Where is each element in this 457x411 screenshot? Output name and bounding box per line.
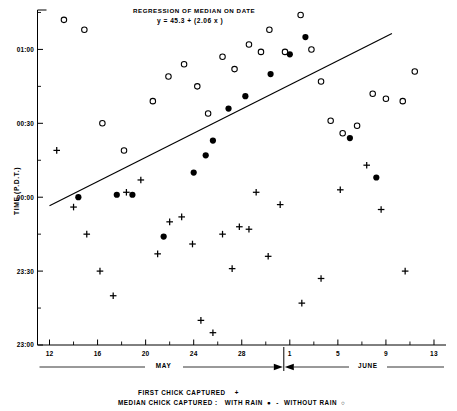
legend-label-first-chick: FIRST CHICK CAPTURED: [138, 389, 226, 396]
data-point-first-chick: [97, 268, 104, 275]
data-point-median-without-rain: [100, 121, 106, 127]
x-tick-label: 9: [375, 350, 397, 357]
data-point-median-without-rain: [205, 111, 211, 117]
data-point-median-with-rain: [225, 105, 231, 111]
legend-median-chick: MEDIAN CHICK CAPTURED :WITH RAIN●-WITHOU…: [118, 399, 345, 406]
data-point-median-without-rain: [412, 69, 418, 75]
data-point-first-chick: [318, 275, 325, 282]
data-point-median-without-rain: [328, 118, 334, 124]
data-point-first-chick: [166, 219, 173, 226]
data-point-first-chick: [299, 300, 306, 307]
x-tick-label: 16: [87, 350, 109, 357]
data-point-first-chick: [70, 204, 77, 211]
month-label: JUNE: [349, 362, 387, 369]
data-point-median-without-rain: [282, 49, 288, 55]
data-point-median-with-rain: [267, 71, 273, 77]
data-point-median-without-rain: [318, 79, 324, 85]
data-point-median-without-rain: [354, 123, 360, 129]
data-point-median-with-rain: [75, 194, 81, 200]
data-point-first-chick: [53, 147, 60, 154]
data-point-median-without-rain: [246, 42, 252, 48]
data-point-median-without-rain: [181, 61, 187, 67]
data-point-first-chick: [246, 226, 253, 233]
data-point-first-chick: [265, 253, 272, 260]
legend-label-without-rain: WITHOUT RAIN: [284, 399, 337, 406]
scatter-plot-figure: REGRESSION OF MEDIAN ON DATE y = 45.3 + …: [0, 0, 457, 411]
data-point-first-chick: [236, 223, 243, 230]
data-point-first-chick: [378, 206, 385, 213]
data-point-median-with-rain: [191, 169, 197, 175]
data-point-median-without-rain: [298, 12, 304, 18]
data-point-median-with-rain: [129, 192, 135, 198]
y-tick-label: 00:30: [0, 120, 34, 127]
data-point-first-chick: [253, 189, 260, 196]
data-point-first-chick: [110, 292, 117, 299]
data-point-median-without-rain: [220, 54, 226, 60]
data-point-median-with-rain: [114, 192, 120, 198]
month-label: MAY: [145, 362, 183, 369]
may-arrowhead: [274, 364, 283, 370]
june-arrowhead: [285, 364, 294, 370]
x-tick-label: 24: [183, 350, 205, 357]
data-point-median-without-rain: [195, 84, 201, 90]
open-circle-icon: ○: [341, 399, 345, 406]
data-point-median-without-rain: [258, 49, 264, 55]
data-point-median-without-rain: [232, 66, 238, 72]
y-tick-label: 23:00: [0, 341, 34, 348]
data-point-first-chick: [83, 231, 90, 238]
data-point-first-chick: [138, 177, 145, 184]
data-point-first-chick: [210, 329, 217, 336]
data-point-median-without-rain: [267, 27, 273, 33]
data-point-median-without-rain: [383, 96, 389, 102]
x-tick-label: 28: [231, 350, 253, 357]
data-point-first-chick: [229, 265, 236, 272]
data-point-median-without-rain: [61, 17, 67, 23]
legend-first-chick: FIRST CHICK CAPTURED+: [138, 389, 239, 396]
data-point-first-chick: [198, 317, 205, 324]
data-point-median-without-rain: [340, 130, 346, 136]
data-point-median-with-rain: [161, 234, 167, 240]
data-point-median-without-rain: [400, 98, 406, 104]
data-point-first-chick: [154, 251, 161, 258]
data-point-first-chick: [363, 162, 370, 169]
data-point-first-chick: [219, 231, 226, 238]
data-point-first-chick: [123, 189, 130, 196]
data-point-median-without-rain: [309, 47, 315, 53]
data-point-median-without-rain: [121, 148, 127, 154]
y-tick-label: 00:00: [0, 194, 34, 201]
x-tick-label: 13: [423, 350, 445, 357]
y-tick-label: 23:30: [0, 268, 34, 275]
data-point-median-without-rain: [150, 98, 156, 104]
x-tick-label: 20: [135, 350, 157, 357]
data-point-median-without-rain: [166, 74, 172, 80]
data-point-first-chick: [178, 214, 185, 221]
data-point-median-without-rain: [370, 91, 376, 97]
y-tick-label: 01:00: [0, 46, 34, 53]
data-point-median-with-rain: [302, 34, 308, 40]
data-point-first-chick: [402, 268, 409, 275]
plus-icon: +: [235, 389, 239, 396]
data-point-median-without-rain: [82, 27, 88, 33]
x-tick-label: 5: [327, 350, 349, 357]
x-tick-label: 12: [39, 350, 61, 357]
data-point-median-with-rain: [210, 137, 216, 143]
data-point-first-chick: [277, 201, 284, 208]
data-point-first-chick: [337, 187, 344, 194]
x-tick-label: 1: [279, 350, 301, 357]
data-point-median-with-rain: [242, 93, 248, 99]
legend-label-with-rain: WITH RAIN: [225, 399, 263, 406]
data-point-median-with-rain: [373, 174, 379, 180]
data-point-median-with-rain: [203, 152, 209, 158]
data-point-median-with-rain: [347, 135, 353, 141]
filled-circle-icon: ●: [267, 399, 271, 406]
legend-label-median-chick: MEDIAN CHICK CAPTURED :: [118, 399, 218, 406]
data-point-first-chick: [189, 241, 196, 248]
legend-separator: -: [276, 399, 279, 406]
